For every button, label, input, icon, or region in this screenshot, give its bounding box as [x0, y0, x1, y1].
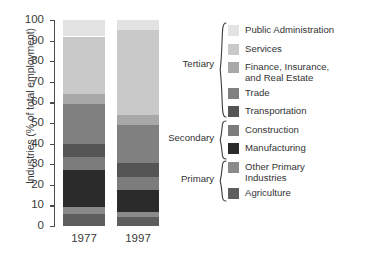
- legend-item[interactable]: Other Primary Industries: [228, 161, 305, 183]
- legend-swatch-icon: [228, 25, 239, 36]
- plot-area: 1009080706050403020100 1977 1997: [54, 20, 166, 226]
- bar-segment-services[interactable]: [117, 30, 159, 114]
- y-tick-10: 10: [50, 205, 55, 206]
- legend-label: Transportation: [245, 105, 307, 116]
- group-brace-primary: [218, 160, 227, 202]
- y-tick-label-40: 40: [31, 138, 44, 150]
- legend-swatch-icon: [228, 44, 239, 55]
- group-brace-tertiary: [218, 22, 227, 118]
- bar-segment-finance-insurance-and-real-estate[interactable]: [117, 115, 159, 125]
- bar-segment-trade[interactable]: [117, 125, 159, 163]
- legend-swatch-icon: [228, 143, 239, 154]
- bar-segment-services[interactable]: [63, 37, 105, 95]
- bar-segment-manufacturing[interactable]: [117, 190, 159, 212]
- y-tick-50: 50: [50, 123, 55, 124]
- legend-item[interactable]: Manufacturing: [228, 142, 306, 154]
- y-tick-label-30: 30: [31, 158, 44, 170]
- legend-swatch-icon: [228, 125, 239, 136]
- y-tick-label-50: 50: [31, 117, 44, 129]
- x-axis-label-1997: 1997: [117, 232, 159, 244]
- bar-segment-transportation[interactable]: [63, 144, 105, 157]
- y-tick-label-100: 100: [25, 14, 44, 26]
- legend-swatch-icon: [228, 88, 239, 99]
- y-tick-label-10: 10: [31, 200, 44, 212]
- y-tick-100: 100: [50, 20, 55, 21]
- chart-figure: Industries (% of total employment) 10090…: [0, 0, 367, 257]
- group-label-primary: Primary: [134, 173, 214, 184]
- stacked-bar-1997[interactable]: [117, 20, 159, 226]
- y-tick-20: 20: [50, 185, 55, 186]
- legend-swatch-icon: [228, 106, 239, 117]
- group-label-tertiary: Tertiary: [134, 58, 214, 69]
- y-tick-60: 60: [50, 102, 55, 103]
- legend-item[interactable]: Finance, Insurance, and Real Estate: [228, 61, 329, 83]
- group-label-secondary: Secondary: [134, 132, 214, 143]
- bar-segment-public-administration[interactable]: [63, 20, 105, 36]
- group-brace-secondary: [218, 120, 227, 160]
- y-tick-70: 70: [50, 82, 55, 83]
- legend-item[interactable]: Agriculture: [228, 187, 291, 199]
- bar-segment-agriculture[interactable]: [117, 217, 159, 226]
- y-tick-label-0: 0: [38, 220, 44, 232]
- legend-item[interactable]: Public Administration: [228, 24, 334, 36]
- y-tick-90: 90: [50, 41, 55, 42]
- stacked-bar-1977[interactable]: [63, 20, 105, 226]
- legend-swatch-icon: [228, 162, 239, 173]
- bar-segment-agriculture[interactable]: [63, 214, 105, 226]
- bar-segment-public-administration[interactable]: [117, 20, 159, 30]
- legend-label: Agriculture: [245, 187, 291, 198]
- y-tick-40: 40: [50, 144, 55, 145]
- legend-item[interactable]: Construction: [228, 124, 299, 136]
- legend-label: Trade: [245, 87, 270, 98]
- y-tick-label-70: 70: [31, 76, 44, 88]
- legend-label: Finance, Insurance, and Real Estate: [245, 61, 329, 83]
- bar-segment-trade[interactable]: [63, 104, 105, 143]
- y-tick-30: 30: [50, 164, 55, 165]
- legend-swatch-icon: [228, 188, 239, 199]
- x-axis-label-1977: 1977: [63, 232, 105, 244]
- y-tick-0: 0: [50, 226, 55, 227]
- legend-item[interactable]: Trade: [228, 87, 270, 99]
- legend-item[interactable]: Services: [228, 43, 282, 55]
- legend-item[interactable]: Transportation: [228, 105, 307, 117]
- legend-label: Manufacturing: [245, 142, 306, 153]
- legend-label: Other Primary Industries: [245, 161, 305, 183]
- y-tick-label-80: 80: [31, 55, 44, 67]
- bar-segment-other-primary-industries[interactable]: [117, 212, 159, 217]
- bar-segment-other-primary-industries[interactable]: [63, 207, 105, 213]
- bar-segment-construction[interactable]: [63, 157, 105, 170]
- legend-label: Services: [245, 43, 282, 54]
- legend-label: Construction: [245, 124, 299, 135]
- y-tick-label-90: 90: [31, 35, 44, 47]
- legend-swatch-icon: [228, 62, 239, 73]
- bar-segment-manufacturing[interactable]: [63, 170, 105, 207]
- y-tick-label-60: 60: [31, 97, 44, 109]
- bar-segment-finance-insurance-and-real-estate[interactable]: [63, 94, 105, 104]
- y-tick-label-20: 20: [31, 179, 44, 191]
- y-tick-80: 80: [50, 61, 55, 62]
- legend-label: Public Administration: [245, 24, 334, 35]
- chart-legend: Public AdministrationServicesFinance, In…: [180, 24, 367, 224]
